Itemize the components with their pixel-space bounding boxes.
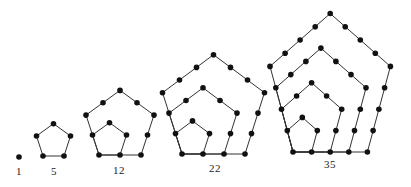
dot bbox=[352, 128, 358, 134]
dot bbox=[90, 132, 96, 138]
dot bbox=[211, 52, 217, 58]
dot bbox=[285, 128, 291, 134]
dot bbox=[124, 132, 130, 138]
figure-label: 35 bbox=[324, 158, 336, 170]
dot bbox=[200, 151, 206, 157]
dot bbox=[312, 24, 318, 30]
figure-label: 12 bbox=[113, 164, 125, 176]
dot bbox=[117, 88, 123, 94]
dot bbox=[134, 100, 140, 106]
dot bbox=[315, 128, 321, 134]
dot bbox=[160, 90, 166, 96]
dot bbox=[173, 131, 179, 137]
dot bbox=[282, 50, 288, 56]
dot bbox=[358, 106, 364, 112]
dot bbox=[255, 110, 261, 116]
dot bbox=[309, 149, 315, 155]
dot bbox=[207, 131, 213, 137]
dot bbox=[358, 37, 364, 43]
dot bbox=[217, 98, 223, 104]
dot bbox=[179, 151, 185, 157]
dot bbox=[96, 152, 102, 158]
dot bbox=[318, 45, 324, 51]
dot bbox=[245, 77, 251, 83]
dot bbox=[348, 72, 354, 78]
dot bbox=[61, 153, 67, 159]
dot bbox=[309, 80, 315, 86]
dot bbox=[290, 149, 296, 155]
dot bbox=[83, 112, 89, 118]
dot bbox=[249, 131, 255, 137]
dot bbox=[288, 72, 294, 78]
dot bbox=[303, 59, 309, 65]
dot bbox=[376, 106, 382, 112]
dot bbox=[294, 93, 300, 99]
pentagon-outline bbox=[37, 124, 71, 156]
dot bbox=[370, 128, 376, 134]
dot bbox=[382, 85, 388, 91]
dot bbox=[342, 24, 348, 30]
figure-label: 5 bbox=[51, 165, 57, 177]
dot bbox=[267, 64, 273, 70]
dot bbox=[221, 151, 227, 157]
dot bbox=[327, 11, 333, 17]
dot bbox=[324, 93, 330, 99]
dot bbox=[68, 133, 74, 139]
pentagon-figure-22 bbox=[160, 52, 268, 157]
dot bbox=[234, 110, 240, 116]
dot bbox=[194, 65, 200, 71]
pentagon-outline bbox=[86, 90, 154, 155]
dot bbox=[333, 59, 339, 65]
dot bbox=[346, 149, 352, 155]
dot bbox=[107, 120, 113, 126]
pentagon-outline bbox=[163, 55, 265, 154]
dot bbox=[117, 152, 123, 158]
pentagon-figure-5 bbox=[34, 121, 74, 159]
dot bbox=[166, 110, 172, 116]
dot bbox=[242, 151, 248, 157]
dot bbox=[365, 149, 371, 155]
dot bbox=[297, 37, 303, 43]
dot bbox=[145, 132, 151, 138]
figure-label: 1 bbox=[16, 165, 22, 177]
dot bbox=[327, 149, 333, 155]
dot bbox=[279, 106, 285, 112]
dot bbox=[228, 65, 234, 71]
dot bbox=[273, 85, 279, 91]
dot bbox=[138, 152, 144, 158]
dot bbox=[339, 106, 345, 112]
dot bbox=[51, 121, 57, 127]
pentagonal-numbers-diagram bbox=[0, 0, 411, 187]
dot bbox=[262, 90, 268, 96]
dot bbox=[300, 115, 306, 121]
dot bbox=[228, 131, 234, 137]
dot bbox=[373, 50, 379, 56]
dot bbox=[200, 85, 206, 91]
dot bbox=[40, 153, 46, 159]
dot bbox=[177, 77, 183, 83]
pentagon-figure-1 bbox=[16, 154, 22, 160]
dot bbox=[16, 154, 22, 160]
figure-label: 22 bbox=[209, 162, 221, 174]
dot bbox=[333, 128, 339, 134]
dot bbox=[183, 98, 189, 104]
dot bbox=[100, 100, 106, 106]
pentagon-figure-35 bbox=[267, 11, 393, 155]
pentagon-figure-12 bbox=[83, 88, 157, 158]
dot bbox=[190, 118, 196, 124]
dot bbox=[34, 133, 40, 139]
dot bbox=[151, 112, 157, 118]
dot bbox=[363, 85, 369, 91]
dot bbox=[388, 64, 394, 70]
